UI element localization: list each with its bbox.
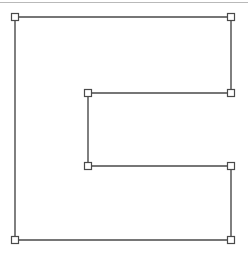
vertex-marker-bottom-right[interactable] xyxy=(228,237,235,244)
vertex-marker-notch-lower-right[interactable] xyxy=(228,163,235,170)
vertex-marker-top-left[interactable] xyxy=(12,14,19,21)
shape-canvas xyxy=(0,0,248,255)
c-shaped-polygon-outline[interactable] xyxy=(15,17,231,240)
shape-svg xyxy=(0,0,248,255)
vertex-marker-notch-lower-left[interactable] xyxy=(85,163,92,170)
vertex-marker-bottom-left[interactable] xyxy=(12,237,19,244)
vertex-marker-notch-upper-right[interactable] xyxy=(228,90,235,97)
vertex-marker-notch-upper-left[interactable] xyxy=(85,90,92,97)
vertex-marker-top-right[interactable] xyxy=(228,14,235,21)
